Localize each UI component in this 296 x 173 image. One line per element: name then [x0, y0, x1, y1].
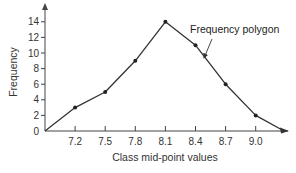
y-tick-label: 10 [28, 48, 40, 59]
data-point-marker [73, 106, 77, 110]
y-axis-arrow-icon [42, 3, 48, 10]
annotation-label: Frequency polygon [190, 23, 279, 35]
frequency-polygon-line [45, 22, 284, 131]
x-tick-label: 9.0 [249, 136, 263, 147]
x-tick-label: 7.2 [68, 136, 82, 147]
x-ticks: 7.27.57.88.18.48.79.0 [68, 126, 263, 147]
data-point-marker [254, 113, 258, 117]
data-point-marker [133, 59, 137, 63]
x-tick-label: 8.7 [219, 136, 233, 147]
polygon-end-arrow-icon [280, 128, 289, 134]
frequency-polygon-chart: 02468101214 7.27.57.88.18.48.79.0 Freque… [0, 0, 296, 173]
x-tick-label: 7.5 [98, 136, 112, 147]
y-tick-label: 2 [33, 110, 39, 121]
y-tick-label: 14 [28, 16, 40, 27]
data-point-marker [224, 82, 228, 86]
y-tick-label: 4 [33, 94, 39, 105]
x-axis-title: Class mid-point values [112, 151, 218, 163]
x-tick-label: 8.1 [158, 136, 172, 147]
annotation-arrow-icon [204, 39, 212, 58]
y-tick-label: 6 [33, 79, 39, 90]
data-point-marker [103, 90, 107, 94]
x-tick-label: 7.8 [128, 136, 142, 147]
y-ticks: 02468101214 [28, 16, 45, 136]
y-tick-label: 8 [33, 63, 39, 74]
y-tick-label: 0 [33, 126, 39, 137]
data-point-marker [163, 20, 167, 24]
y-axis-title: Frequency [7, 46, 19, 96]
x-tick-label: 8.4 [189, 136, 203, 147]
data-point-marker [194, 43, 198, 47]
y-tick-label: 12 [28, 32, 40, 43]
